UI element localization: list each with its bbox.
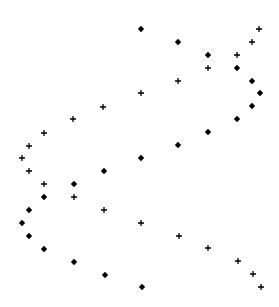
plus-marker <box>41 130 47 136</box>
plus-marker <box>205 245 211 251</box>
diamond-marker <box>19 220 25 226</box>
plus-marker <box>26 143 32 149</box>
diamond-series <box>19 26 263 290</box>
plus-marker <box>256 26 262 32</box>
diamond-marker <box>139 284 145 290</box>
diamond-marker <box>175 39 181 45</box>
diamond-marker <box>41 194 47 200</box>
diamond-marker <box>234 116 240 122</box>
diamond-marker <box>71 181 77 187</box>
diamond-marker <box>257 90 263 96</box>
diamond-marker <box>26 207 32 213</box>
diamond-marker <box>71 259 77 265</box>
diamond-marker <box>234 65 240 71</box>
diamond-marker <box>205 52 211 58</box>
plus-marker <box>100 104 106 110</box>
diamond-marker <box>138 26 144 32</box>
plus-marker <box>250 271 256 277</box>
diamond-marker <box>26 233 32 239</box>
plus-marker <box>41 181 47 187</box>
plus-marker <box>138 220 144 226</box>
plus-marker <box>205 65 211 71</box>
plus-marker <box>70 116 76 122</box>
diamond-marker <box>249 103 255 109</box>
diamond-marker <box>205 129 211 135</box>
plus-marker <box>175 78 181 84</box>
diamond-marker <box>102 272 108 278</box>
diamond-marker <box>41 246 47 252</box>
diamond-marker <box>175 142 181 148</box>
diamond-marker <box>101 168 107 174</box>
plus-marker <box>101 207 107 213</box>
diamond-marker <box>249 78 255 84</box>
plus-marker <box>176 233 182 239</box>
scatter-plot <box>0 0 279 307</box>
plus-marker <box>26 168 32 174</box>
diamond-marker <box>138 155 144 161</box>
plus-marker <box>234 52 240 58</box>
plus-marker <box>19 155 25 161</box>
plus-marker <box>71 194 77 200</box>
plus-marker <box>258 284 264 290</box>
plus-marker <box>249 39 255 45</box>
plus-marker <box>235 258 241 264</box>
plus-marker <box>138 90 144 96</box>
